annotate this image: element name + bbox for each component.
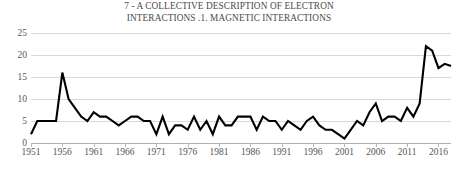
x-tick-label: 1991 (272, 147, 291, 158)
x-tick-label: 2006 (366, 147, 385, 158)
x-tick-label: 2001 (335, 147, 354, 158)
x-tick-label: 1951 (22, 147, 41, 158)
x-tick-label: 1986 (241, 147, 260, 158)
x-tick-label: 2016 (429, 147, 448, 158)
x-tick-label: 2011 (398, 147, 417, 158)
x-tick-label: 1961 (84, 147, 103, 158)
chart-figure: 7 - A COLLECTIVE DESCRIPTION OF ELECTRON… (0, 0, 458, 169)
x-tick-label: 1956 (53, 147, 72, 158)
x-tick-label: 1996 (304, 147, 323, 158)
x-tick-label: 1976 (178, 147, 197, 158)
x-axis: 1951195619611966197119761981198619911996… (0, 0, 458, 169)
x-tick-label: 1981 (210, 147, 229, 158)
x-tick-label: 1966 (116, 147, 135, 158)
x-tick-label: 1971 (147, 147, 166, 158)
